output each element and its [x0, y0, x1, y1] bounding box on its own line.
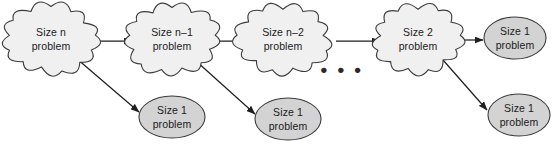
- nodes-layer: Size n problem Size n–1 problem Size n–2…: [2, 2, 550, 140]
- edge-size-n-1-to-base-case-2: [196, 61, 255, 114]
- node-label-line2: problem: [264, 40, 303, 52]
- node-cloud-size-n-minus-1[interactable]: Size n–1 problem: [125, 3, 220, 76]
- node-ellipse-base-case-2[interactable]: Size 1 problem: [255, 98, 321, 140]
- node-label-line2: problem: [269, 120, 308, 132]
- node-label-line1: Size 1: [157, 104, 187, 116]
- edge-size-n-to-base-case-1: [76, 58, 139, 112]
- edge-size-2-to-base-case-4: [443, 60, 487, 110]
- diagram-canvas: Size n problem Size n–1 problem Size n–2…: [0, 0, 559, 145]
- node-label-line2: problem: [399, 40, 438, 52]
- node-label-line2: problem: [153, 40, 192, 52]
- node-label-line1: Size 1: [273, 106, 303, 118]
- node-label-line1: Size n–1: [151, 26, 193, 38]
- node-cloud-size-n-minus-2[interactable]: Size n–2 problem: [233, 3, 332, 76]
- node-label-line2: problem: [500, 116, 539, 128]
- node-label-line1: Size 1: [504, 102, 534, 114]
- node-label-line2: problem: [153, 118, 192, 130]
- node-label-line1: Size 1: [500, 25, 530, 37]
- node-ellipse-base-case-1[interactable]: Size 1 problem: [139, 96, 205, 138]
- node-ellipse-base-case-4[interactable]: Size 1 problem: [488, 94, 550, 136]
- node-cloud-size-2[interactable]: Size 2 problem: [372, 3, 465, 76]
- node-cloud-size-n[interactable]: Size n problem: [2, 2, 100, 76]
- node-label-line1: Size n–2: [262, 26, 304, 38]
- recursion-flow-diagram: Size n problem Size n–1 problem Size n–2…: [0, 0, 559, 145]
- node-label-line2: problem: [496, 39, 535, 51]
- node-label-line1: Size 2: [403, 26, 433, 38]
- node-label-line2: problem: [32, 40, 71, 52]
- node-ellipse-base-case-3[interactable]: Size 1 problem: [484, 17, 546, 59]
- node-label-line1: Size n: [36, 26, 66, 38]
- ellipsis-continuation: • • •: [320, 59, 363, 80]
